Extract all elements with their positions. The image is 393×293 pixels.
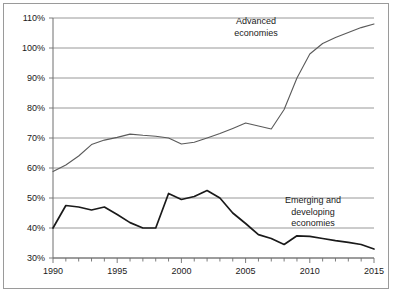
y-tick-label: 50% bbox=[27, 193, 45, 203]
y-tick-label: 90% bbox=[27, 73, 45, 83]
y-tick-labels: 30%40%50%60%70%80%90%100%110% bbox=[22, 13, 45, 263]
y-tick-label: 40% bbox=[27, 223, 45, 233]
series-line bbox=[53, 24, 374, 172]
annotation-line: economies bbox=[234, 28, 278, 38]
x-tick-label: 2010 bbox=[300, 266, 320, 276]
x-tick-label: 2005 bbox=[236, 266, 256, 276]
y-tick-marks bbox=[49, 18, 53, 258]
x-tick-label: 1990 bbox=[43, 266, 63, 276]
x-tick-label: 1995 bbox=[107, 266, 127, 276]
annotation-line: Emerging and bbox=[285, 195, 341, 205]
x-tick-labels: 199019952000200520102015 bbox=[43, 266, 384, 276]
x-tick-marks bbox=[53, 258, 374, 263]
advanced-economies-label: Advancedeconomies bbox=[234, 16, 278, 38]
y-tick-label: 100% bbox=[22, 43, 45, 53]
y-tick-label: 80% bbox=[27, 103, 45, 113]
y-tick-label: 70% bbox=[27, 133, 45, 143]
annotation-line: developing bbox=[291, 207, 335, 217]
emerging-economies-label: Emerging anddevelopingeconomies bbox=[285, 195, 341, 228]
line-chart: 30%40%50%60%70%80%90%100%110% 1990199520… bbox=[0, 0, 393, 293]
y-tick-label: 110% bbox=[23, 13, 45, 23]
y-tick-label: 30% bbox=[27, 253, 45, 263]
annotation-line: Advanced bbox=[236, 16, 276, 26]
x-tick-label: 2000 bbox=[171, 266, 191, 276]
y-tick-label: 60% bbox=[27, 163, 45, 173]
chart-figure: 30%40%50%60%70%80%90%100%110% 1990199520… bbox=[0, 0, 393, 293]
x-tick-label: 2015 bbox=[364, 266, 384, 276]
annotation-line: economies bbox=[291, 218, 335, 228]
